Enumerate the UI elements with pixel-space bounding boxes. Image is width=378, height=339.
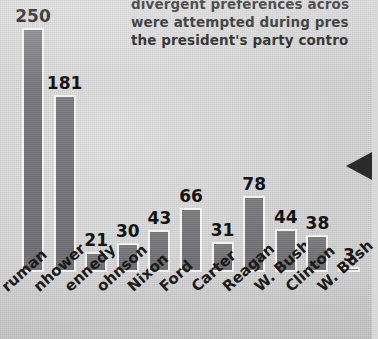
bar-value-label-6: 66	[170, 186, 212, 206]
bar-value-label-8: 78	[233, 174, 275, 194]
bar-1	[22, 28, 44, 272]
triangle-pointer-icon	[346, 152, 372, 180]
bar-value-label-1: 250	[12, 6, 54, 26]
bar-value-label-5: 43	[138, 208, 180, 228]
bar-value-label-10: 38	[296, 213, 338, 233]
bar-value-label-2: 181	[44, 73, 86, 93]
bar-value-label-7: 31	[202, 220, 244, 240]
